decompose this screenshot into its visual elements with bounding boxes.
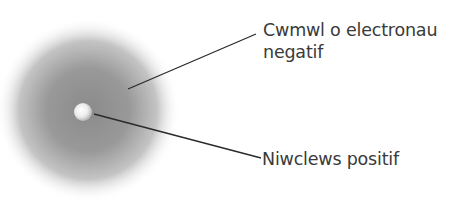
cloud-label-line2: negatif xyxy=(263,41,437,63)
cloud-label: Cwmwl o electronau negatif xyxy=(263,19,437,63)
cloud-label-line1: Cwmwl o electronau xyxy=(263,19,437,41)
nucleus-label: Niwclews positif xyxy=(262,148,399,170)
atom-diagram: Cwmwl o electronau negatif Niwclews posi… xyxy=(0,0,471,205)
nucleus xyxy=(74,103,92,121)
